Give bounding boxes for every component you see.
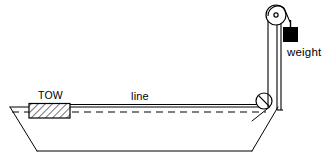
tow-block-body	[29, 104, 70, 119]
tow-block	[29, 104, 70, 119]
hull-right-side	[252, 107, 278, 151]
weight-block	[284, 28, 298, 42]
upper-pulley	[266, 5, 290, 25]
line-label: line	[131, 90, 149, 102]
weight-label: weight	[286, 46, 322, 58]
upper-pulley-axle	[274, 13, 278, 17]
figure-container: TOW line weight	[0, 0, 324, 159]
tow-label: TOW	[38, 89, 63, 101]
tow-apparatus-diagram: TOW line weight	[0, 0, 324, 159]
